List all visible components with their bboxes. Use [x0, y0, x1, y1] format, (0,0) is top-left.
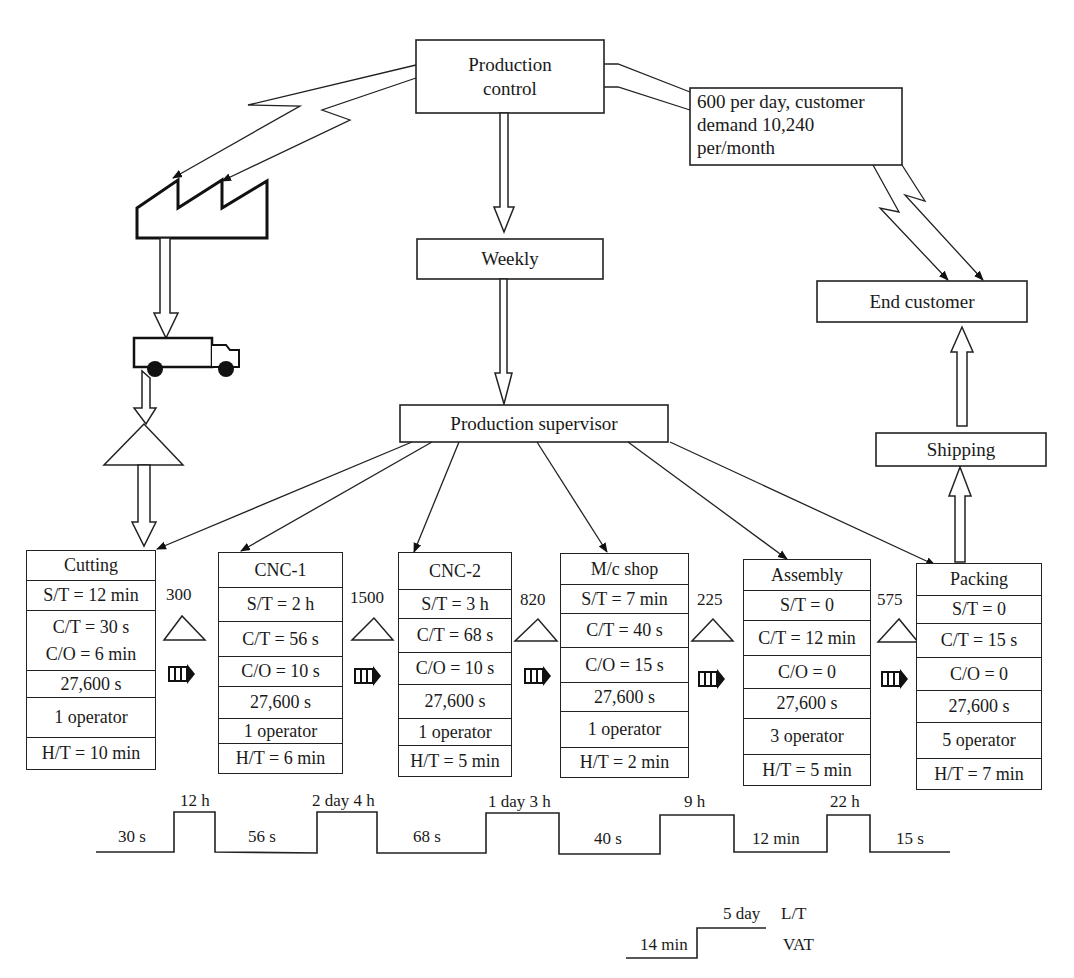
inventory-count: 820 [520, 590, 546, 610]
setup-time: S/T = 2 h [219, 588, 342, 622]
process-name: Packing [917, 564, 1041, 596]
timeline-wait-label: 1 day 3 h [488, 792, 551, 812]
available-time: 27,600 s [917, 691, 1041, 723]
weekly-to-supervisor-arrow [495, 279, 512, 404]
control-to-weekly-arrow [494, 113, 514, 232]
setup-time: S/T = 0 [744, 591, 870, 621]
cycle-time: C/T = 30 s [53, 617, 129, 638]
timeline-wait-label: 22 h [830, 792, 860, 812]
handling-time: H/T = 2 min [561, 748, 688, 777]
supervisor-schedule-arrows [157, 442, 935, 565]
timeline-va-label: 40 s [594, 829, 622, 849]
available-time: 27,600 s [561, 683, 688, 712]
available-time: 27,600 s [744, 689, 870, 719]
lightning-arrow-icon [873, 165, 983, 280]
available-time: 27,600 s [219, 687, 342, 719]
changeover-time: C/O = 15 s [561, 648, 688, 683]
changeover-time: C/O = 10 s [219, 657, 342, 687]
push-arrow-icon [355, 666, 381, 686]
operators: 5 operator [917, 723, 1041, 759]
setup-time: S/T = 0 [917, 596, 1041, 624]
handling-time: H/T = 10 min [27, 738, 155, 769]
process-name: Assembly [744, 560, 870, 591]
production-supervisor-label: Production supervisor [400, 405, 668, 442]
inventory-triangle-icon [878, 619, 918, 642]
handling-time: H/T = 7 min [917, 759, 1041, 789]
weekly-label: Weekly [417, 239, 603, 279]
customer-demand-text: 600 per day, customer demand 10,240 per/… [697, 90, 902, 160]
cycle-time: C/T = 68 s [399, 619, 511, 653]
factory-icon [137, 180, 267, 238]
inventory-count: 300 [166, 585, 192, 605]
changeover-time: C/O = 0 [744, 656, 870, 689]
supplier-to-truck-arrow [154, 238, 178, 338]
cycle-changeover-cell: C/T = 30 s C/O = 6 min [27, 611, 155, 671]
vat-label: VAT [783, 935, 814, 955]
timeline-wait-label: 12 h [180, 791, 210, 811]
info-line-lower [604, 87, 690, 110]
timeline-wait-label: 2 day 4 h [312, 791, 375, 811]
changeover-time: C/O = 0 [917, 658, 1041, 691]
changeover-time: C/O = 6 min [46, 644, 137, 665]
process-name: CNC-2 [399, 553, 511, 590]
handling-time: H/T = 5 min [399, 746, 511, 776]
end-customer-label: End customer [817, 281, 1027, 322]
lead-time-label: L/T [781, 904, 807, 924]
setup-time: S/T = 3 h [399, 590, 511, 619]
shipping-to-customer-arrow [951, 327, 973, 426]
cycle-time: C/T = 56 s [219, 622, 342, 657]
timeline-ladder [96, 812, 950, 854]
inventory-triangle-icon [515, 619, 557, 641]
changeover-time: C/O = 10 s [399, 653, 511, 685]
production-control-line1: Production [468, 53, 551, 77]
timeline-va-label: 68 s [413, 827, 441, 847]
info-line-upper [604, 64, 690, 92]
demand-line2: demand 10,240 [697, 113, 902, 136]
timeline-va-label: 15 s [896, 829, 924, 849]
timeline-va-label: 56 s [248, 827, 276, 847]
available-time: 27,600 s [399, 685, 511, 719]
inventory-count: 1500 [350, 588, 384, 608]
shipping-label: Shipping [876, 433, 1046, 466]
demand-line3: per/month [697, 136, 902, 159]
inventory-count: 225 [697, 590, 723, 610]
operators: 3 operator [744, 719, 870, 755]
process-box-mc-shop: M/c shop S/T = 7 min C/T = 40 s C/O = 15… [560, 553, 689, 778]
push-arrow-icon [699, 669, 725, 689]
truck-to-inventory-arrow [134, 371, 156, 424]
push-arrow-icon [169, 664, 195, 684]
push-arrow-icon [525, 666, 551, 686]
operators: 1 operator [27, 698, 155, 738]
operators: 1 operator [561, 712, 688, 748]
timeline-wait-label: 9 h [684, 792, 705, 812]
process-name: CNC-1 [219, 553, 342, 588]
setup-time: S/T = 7 min [561, 585, 688, 614]
inventory-count: 575 [877, 590, 903, 610]
cycle-time: C/T = 15 s [917, 624, 1041, 658]
process-box-cutting: Cutting S/T = 12 min C/T = 30 s C/O = 6 … [26, 550, 156, 770]
process-name: M/c shop [561, 554, 688, 585]
packing-to-shipping-arrow [949, 467, 971, 562]
lightning-arrow-icon [173, 65, 416, 181]
cycle-time: C/T = 12 min [744, 621, 870, 656]
process-box-assembly: Assembly S/T = 0 C/T = 12 min C/O = 0 27… [743, 559, 871, 786]
operators: 1 operator [399, 719, 511, 746]
inventory-triangle-icon [104, 424, 183, 465]
process-box-packing: Packing S/T = 0 C/T = 15 s C/O = 0 27,60… [916, 563, 1042, 790]
inventory-triangle-icon [352, 618, 393, 640]
vat-value: 14 min [640, 935, 688, 955]
timeline-va-label: 30 s [118, 827, 146, 847]
inventory-to-cutting-arrow [132, 465, 156, 546]
inventory-triangle-icon [692, 619, 733, 641]
handling-time: H/T = 5 min [744, 755, 870, 785]
demand-line1: 600 per day, customer [697, 90, 902, 113]
push-arrow-icon [882, 669, 908, 689]
lead-time-value: 5 day [723, 904, 760, 924]
inventory-triangle-icon [164, 616, 205, 640]
production-control-line2: control [483, 77, 537, 101]
available-time: 27,600 s [27, 671, 155, 698]
production-control-label: Production control [416, 40, 604, 113]
timeline-va-label: 12 min [752, 829, 800, 849]
process-box-cnc-2: CNC-2 S/T = 3 h C/T = 68 s C/O = 10 s 27… [398, 552, 512, 777]
cycle-time: C/T = 40 s [561, 614, 688, 648]
